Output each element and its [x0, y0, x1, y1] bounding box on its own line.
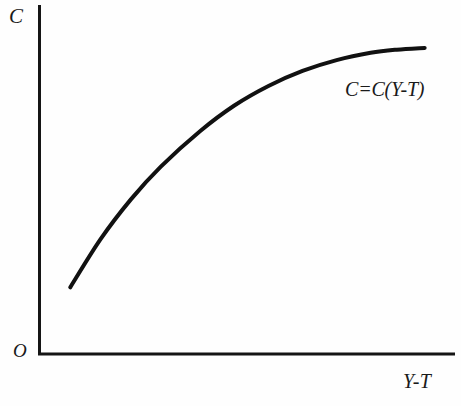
curve-annotation-label: C=C(Y-T): [345, 79, 424, 99]
consumption-function-figure: C Y-T O C=C(Y-T): [0, 0, 461, 406]
origin-label: O: [13, 341, 27, 360]
x-axis-label: Y-T: [403, 371, 431, 391]
chart-canvas: [0, 0, 461, 406]
y-axis-label: C: [9, 6, 23, 27]
